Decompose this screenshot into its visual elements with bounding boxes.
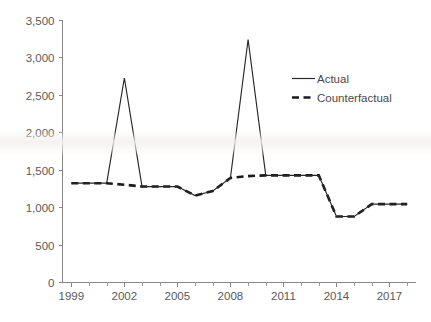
y-tick-label-1000: 1,000 [26, 202, 55, 214]
chart-container: 05001,0001,5002,0002,5003,0003,500 19992… [0, 0, 431, 322]
legend-label-counterfactual: Counterfactual [317, 92, 392, 104]
series-group [71, 39, 407, 216]
x-tick-label-2014: 2014 [324, 290, 350, 302]
y-tick-label-3000: 3,000 [26, 52, 55, 64]
x-tick-label-2008: 2008 [218, 290, 244, 302]
x-tick-label-2005: 2005 [165, 290, 191, 302]
x-tick-label-2002: 2002 [112, 290, 138, 302]
y-tick-label-0: 0 [48, 277, 54, 289]
y-tick-label-1500: 1,500 [26, 165, 55, 177]
y-tick-label-2500: 2,500 [26, 90, 55, 102]
legend-label-actual: Actual [317, 73, 349, 85]
series-line-counterfactual [71, 175, 407, 216]
x-axis-group: 1999200220052008201120142017 [59, 282, 416, 302]
x-tick-label-1999: 1999 [59, 290, 85, 302]
y-axis-tick-labels: 05001,0001,5002,0002,5003,0003,500 [26, 15, 55, 289]
x-tick-label-2017: 2017 [377, 290, 403, 302]
legend: Actual Counterfactual [292, 73, 392, 104]
y-axis-group: 05001,0001,5002,0002,5003,0003,500 [26, 15, 63, 289]
line-chart: 05001,0001,5002,0002,5003,0003,500 19992… [0, 0, 431, 322]
series-line-actual [71, 39, 407, 216]
x-axis-tick-labels: 1999200220052008201120142017 [59, 290, 403, 302]
y-axis-ticks [59, 21, 63, 283]
y-tick-label-500: 500 [35, 240, 54, 252]
y-tick-label-2000: 2,000 [26, 127, 55, 139]
y-tick-label-3500: 3,500 [26, 15, 55, 27]
x-tick-label-2011: 2011 [271, 290, 296, 302]
